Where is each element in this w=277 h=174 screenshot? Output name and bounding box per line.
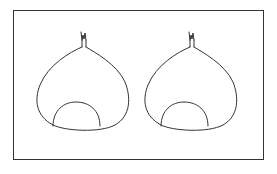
- chestnut-right-icon: [145, 32, 237, 130]
- chestnut-left-icon: [37, 32, 129, 130]
- chestnut-drawing: [0, 0, 277, 174]
